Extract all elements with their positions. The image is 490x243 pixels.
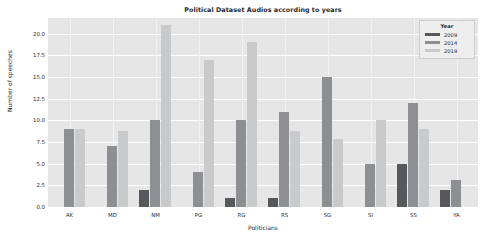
- x-tick-AK: AK: [66, 212, 73, 218]
- legend-title: Year: [423, 23, 471, 29]
- y-tick-17.5: 17.5: [33, 52, 45, 58]
- y-tick-20.0: 20.0: [33, 31, 45, 37]
- bar-RG-2014: [236, 120, 246, 207]
- legend-entry-2019: 2019: [423, 47, 471, 55]
- chart-legend: Year 200920142019: [419, 20, 475, 59]
- bar-SI-2019: [376, 120, 386, 207]
- bar-YA-2009: [440, 190, 450, 207]
- legend-swatch-2009: [425, 33, 440, 37]
- x-axis-label: Politicians: [48, 224, 478, 231]
- bar-SS-2014: [408, 103, 418, 207]
- bar-SS-2019: [419, 129, 429, 207]
- bar-AK-2019: [75, 129, 85, 207]
- bar-SG-2014: [322, 77, 332, 207]
- y-axis-label: Number of speeches: [6, 50, 13, 112]
- plot-area: [48, 18, 478, 207]
- chart-figure: Political Dataset Audios according to ye…: [0, 0, 490, 243]
- legend-label-2014: 2014: [444, 40, 457, 46]
- bar-SG-2019: [333, 139, 343, 207]
- legend-entry-2009: 2009: [423, 31, 471, 39]
- legend-swatch-2019: [425, 49, 440, 53]
- bar-SS-2009: [397, 164, 407, 207]
- x-tick-SI: SI: [368, 212, 373, 218]
- x-tick-RG: RG: [238, 212, 246, 218]
- bar-AK-2014: [64, 129, 74, 207]
- bar-NM-2019: [161, 25, 171, 207]
- bar-RS-2019: [290, 131, 300, 207]
- x-tick-PG: PG: [195, 212, 202, 218]
- x-tick-YA: YA: [453, 212, 460, 218]
- bar-NM-2014: [150, 120, 160, 207]
- x-tick-SG: SG: [324, 212, 332, 218]
- y-tick-10.0: 10.0: [33, 117, 45, 123]
- bar-RS-2014: [279, 112, 289, 207]
- x-tick-SS: SS: [410, 212, 417, 218]
- y-tick-12.5: 12.5: [33, 96, 45, 102]
- bar-SI-2014: [365, 164, 375, 207]
- y-tick-0.0: 0.0: [36, 204, 45, 210]
- bar-MD-2019: [118, 131, 128, 207]
- y-tick-2.5: 2.5: [36, 182, 45, 188]
- legend-label-2019: 2019: [444, 48, 457, 54]
- bar-RS-2009: [268, 198, 278, 207]
- bar-RG-2019: [247, 42, 257, 207]
- bar-NM-2009: [139, 190, 149, 207]
- bar-PG-2019: [204, 60, 214, 207]
- bar-MD-2014: [107, 146, 117, 207]
- bar-PG-2014: [193, 172, 203, 207]
- x-tick-RS: RS: [281, 212, 288, 218]
- y-tick-15.0: 15.0: [33, 74, 45, 80]
- bar-YA-2014: [451, 180, 461, 207]
- x-tick-NM: NM: [151, 212, 160, 218]
- y-tick-5.0: 5.0: [36, 161, 45, 167]
- legend-swatch-2014: [425, 41, 440, 45]
- x-tick-MD: MD: [108, 212, 117, 218]
- chart-title: Political Dataset Audios according to ye…: [48, 6, 478, 14]
- legend-entries: 200920142019: [423, 31, 471, 55]
- y-tick-7.5: 7.5: [36, 139, 45, 145]
- legend-label-2009: 2009: [444, 32, 457, 38]
- legend-entry-2014: 2014: [423, 39, 471, 47]
- bar-RG-2009: [225, 198, 235, 207]
